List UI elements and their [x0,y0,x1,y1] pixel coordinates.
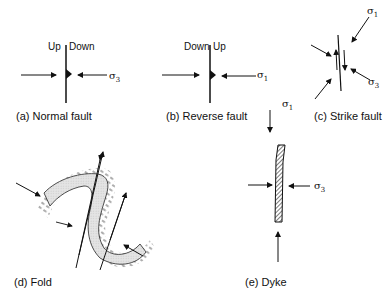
stress-arrow-top-left-icon [16,183,40,196]
sigma-subscript: 1 [374,11,378,19]
dyke-sigma1: σ1 [282,98,293,112]
sigma-subscript: 1 [264,75,268,83]
reverse-fault-caption: (b) Reverse fault [166,110,247,122]
sigma-subscript: 3 [116,76,120,84]
strike-fault-sigma1: σ1 [367,5,378,19]
normal-fault-down-label: Down [69,41,95,52]
sigma-subscript: 3 [375,82,379,90]
panel-strike-fault [311,17,370,99]
sigma-subscript: 3 [321,186,325,194]
stress-arrow-top-right-icon [352,17,369,42]
sigma-symbol: σ [367,5,374,16]
dyke-sigma3: σ3 [314,180,325,194]
fault-line [338,35,341,91]
fold-caption: (d) Fold [14,276,52,288]
sigma-symbol: σ [314,180,321,191]
reverse-fault-up-label: Up [213,41,226,52]
stress-arrow-bottom-left-icon [315,79,331,99]
sigma-symbol: σ [257,69,264,80]
sigma-symbol: σ [368,76,375,87]
reverse-fault-down-label: Down [184,41,210,52]
inner-arrow-icon [56,222,72,226]
slip-arrow-up-icon [336,50,337,70]
slip-arrowhead-icon [210,70,216,80]
strike-fault-caption: (c) Strike fault [314,110,382,122]
sigma-symbol: σ [109,70,116,81]
dyke-caption: (e) Dyke [245,276,287,288]
normal-fault-caption: (a) Normal fault [16,110,92,122]
slip-arrow-down-icon [344,50,345,70]
sigma-symbol: σ [282,98,289,109]
reverse-fault-sigma: σ1 [257,69,268,83]
dyke-body [275,145,285,222]
stress-arrow-top-left-icon [311,45,331,56]
normal-fault-up-label: Up [48,41,61,52]
slip-arrowhead-icon [66,69,72,79]
panel-normal-fault [21,45,107,103]
sigma-subscript: 1 [289,104,293,112]
normal-fault-sigma: σ3 [109,70,120,84]
panel-dyke [248,110,310,262]
panel-fold [16,152,154,270]
strike-fault-sigma3: σ3 [368,76,379,90]
panel-reverse-fault [162,45,256,103]
